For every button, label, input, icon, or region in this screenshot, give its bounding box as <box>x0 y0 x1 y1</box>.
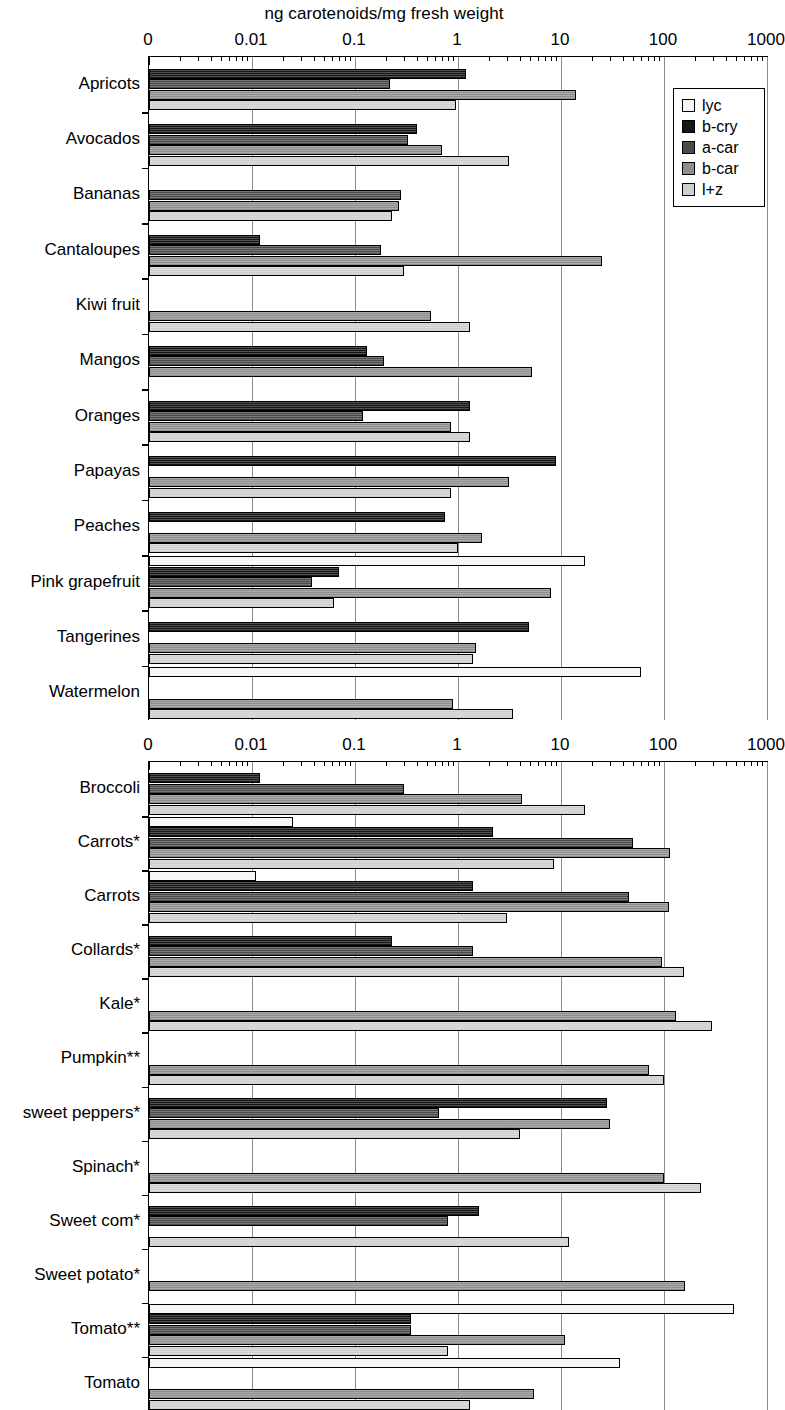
category-tick <box>142 223 149 225</box>
category-tick <box>142 870 149 872</box>
x-tick-minor <box>633 56 634 61</box>
x-tick-minor <box>648 56 649 61</box>
x-tick-minor <box>641 761 642 766</box>
x-tick-label: 100 <box>649 30 677 50</box>
bar-l+z <box>149 488 451 498</box>
x-tick-minor <box>757 56 758 61</box>
category-tick <box>142 278 149 280</box>
x-tick-minor <box>551 56 552 61</box>
category-label: Tangerines <box>57 627 140 647</box>
x-tick-minor <box>211 56 212 61</box>
vegetables-panel: 00.010.11101001000 BroccoliCarrots*Carro… <box>0 735 768 1410</box>
x-tick-minor <box>633 761 634 766</box>
x-tick-minor <box>198 761 199 766</box>
category-label: Watermelon <box>49 682 140 702</box>
x-tick-minor <box>623 56 624 61</box>
bar-b-car <box>149 311 431 321</box>
bar-a-car <box>149 784 404 794</box>
x-tick-minor <box>448 761 449 766</box>
legend-label: l+z <box>702 182 723 198</box>
x-tick-minor <box>324 56 325 61</box>
x-tick-minor <box>435 761 436 766</box>
category-label: Spinach* <box>72 1157 140 1177</box>
category-label: Pumpkin** <box>61 1048 140 1068</box>
category-tick <box>142 1032 149 1034</box>
category-tick <box>142 500 149 502</box>
bar-b-cry <box>149 69 466 79</box>
category-label: Collards* <box>71 940 140 960</box>
x-tick-minor <box>345 56 346 61</box>
x-tick-minor <box>324 761 325 766</box>
x-tick-label: 0.01 <box>234 30 267 50</box>
category-label: Avocados <box>66 129 140 149</box>
category-tick <box>142 666 149 668</box>
bar-b-car <box>149 477 509 487</box>
bar-l+z <box>149 859 554 869</box>
bar-l+z <box>149 967 684 977</box>
bar-a-car <box>149 946 473 956</box>
bar-l+z <box>149 1075 664 1085</box>
x-tick-label: 0.01 <box>234 735 267 755</box>
legend-item-b-car: b-car <box>682 158 754 179</box>
x-tick-minor <box>592 761 593 766</box>
x-tick-minor <box>623 761 624 766</box>
fruits-panel: 00.010.11101001000 ApricotsAvocadosBanan… <box>0 30 768 720</box>
x-tick-minor <box>247 56 248 61</box>
gridline <box>767 57 768 720</box>
bar-b-cry <box>149 512 445 522</box>
x-tick-label: 10 <box>551 735 570 755</box>
x-tick-minor <box>507 761 508 766</box>
x-tick-minor <box>726 761 727 766</box>
x-tick-minor <box>180 56 181 61</box>
x-tick-label: 0 <box>143 30 152 50</box>
bar-a-car <box>149 1325 411 1335</box>
x-tick-minor <box>736 761 737 766</box>
category-label: Papayas <box>74 461 140 481</box>
bar-a-car <box>149 411 363 421</box>
x-tick-minor <box>538 761 539 766</box>
bar-lyc <box>149 667 641 677</box>
bar-b-car <box>149 1065 649 1075</box>
category-tick <box>142 555 149 557</box>
bar-b-car <box>149 256 602 266</box>
x-tick-minor <box>417 56 418 61</box>
x-tick-label: 100 <box>649 735 677 755</box>
legend-swatch-icon <box>682 183 695 196</box>
category-label: Sweet potato* <box>34 1265 140 1285</box>
bar-l+z <box>149 913 507 923</box>
x-tick-minor <box>386 56 387 61</box>
category-tick <box>142 816 149 818</box>
x-tick-label: 1 <box>452 735 461 755</box>
category-tick <box>142 1357 149 1359</box>
bar-b-car <box>149 1173 664 1183</box>
bar-b-cry <box>149 1206 479 1216</box>
x-tick-minor <box>538 56 539 61</box>
category-label: Kiwi fruit <box>76 295 140 315</box>
x-tick-label: 1000 <box>747 30 785 50</box>
category-tick <box>142 112 149 114</box>
category-label: Broccoli <box>80 778 140 798</box>
bar-b-cry <box>149 773 260 783</box>
bar-b-car <box>149 588 551 598</box>
x-tick-minor <box>695 56 696 61</box>
x-tick-minor <box>211 761 212 766</box>
category-tick <box>142 1303 149 1305</box>
x-tick-minor <box>198 56 199 61</box>
category-label: Tomato <box>84 1373 140 1393</box>
bar-b-car <box>149 902 669 912</box>
x-tick-minor <box>713 56 714 61</box>
category-tick <box>142 168 149 170</box>
x-tick-minor <box>242 761 243 766</box>
x-tick-minor <box>744 56 745 61</box>
x-tick-minor <box>507 56 508 61</box>
category-tick <box>142 1195 149 1197</box>
bar-b-car <box>149 533 482 543</box>
bar-b-car <box>149 794 522 804</box>
bar-b-car <box>149 643 476 653</box>
bar-l+z <box>149 432 470 442</box>
x-tick-minor <box>736 56 737 61</box>
legend-label: b-cry <box>702 119 738 135</box>
bar-l+z <box>149 100 456 110</box>
legend-swatch-icon <box>682 99 695 112</box>
